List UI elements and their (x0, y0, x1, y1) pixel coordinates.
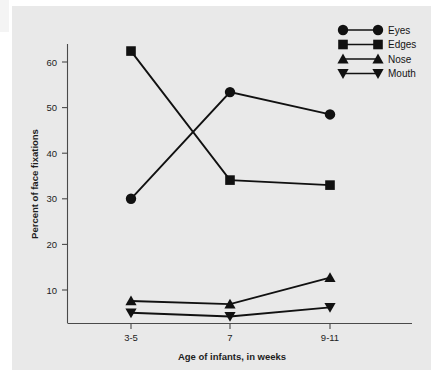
figure-container: 60 50 40 30 20 10 3-5 7 9-11 Age of infa… (0, 0, 441, 384)
legend-item-mouth[interactable]: Mouth (337, 68, 415, 79)
legend-label-edges: Edges (388, 39, 416, 50)
square-marker (338, 40, 348, 50)
y-tick-label-60: 60 (46, 57, 57, 68)
y-tick-label-50: 50 (46, 102, 57, 113)
y-tick-label-40: 40 (46, 148, 57, 159)
axis-group (68, 44, 413, 324)
data-point-eyes-9-11 (325, 109, 335, 119)
x-tick-label-9-11: 9-11 (321, 332, 339, 343)
x-tick-label-7: 7 (227, 332, 232, 343)
line-chart: 60 50 40 30 20 10 3-5 7 9-11 Age of infa… (0, 0, 441, 384)
circle-marker (373, 25, 383, 35)
data-point-nose-9-11 (324, 272, 335, 282)
data-point-edges-7 (225, 175, 235, 185)
series-edges (126, 46, 335, 190)
data-point-edges-9-11 (325, 180, 335, 190)
data-point-edges-3-5 (126, 46, 136, 56)
legend-item-nose[interactable]: Nose (337, 54, 411, 65)
circle-marker (338, 25, 348, 35)
x-tick-group: 3-5 7 9-11 (124, 324, 339, 344)
series-layer (125, 46, 335, 322)
y-axis-title: Percent of face fixations (29, 129, 40, 239)
legend-item-edges[interactable]: Edges (338, 39, 416, 50)
chart-legend: EyesEdgesNoseMouth (337, 25, 416, 80)
legend-item-eyes[interactable]: Eyes (338, 25, 410, 36)
legend-label-nose: Nose (388, 54, 412, 65)
y-tick-label-20: 20 (46, 239, 57, 250)
data-point-eyes-7 (225, 87, 235, 97)
data-point-eyes-3-5 (126, 194, 136, 204)
y-tick-label-30: 30 (46, 193, 57, 204)
y-tick-label-10: 10 (46, 285, 57, 296)
series-line-edges (131, 51, 330, 185)
legend-label-mouth: Mouth (388, 68, 416, 79)
x-tick-label-3-5: 3-5 (124, 332, 138, 343)
y-tick-group: 60 50 40 30 20 10 (46, 57, 67, 296)
legend-label-eyes: Eyes (388, 25, 410, 36)
square-marker (373, 40, 383, 50)
series-nose (125, 272, 335, 308)
series-eyes (126, 87, 335, 204)
x-axis-title: Age of infants, in weeks (178, 351, 286, 362)
